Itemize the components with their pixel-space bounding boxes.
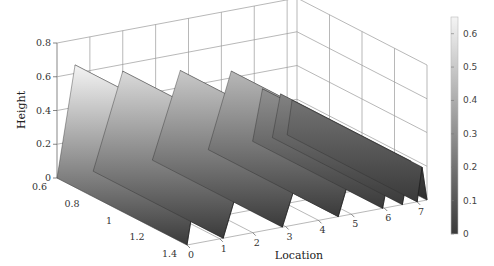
svg-text:0.4: 0.4 <box>463 95 478 105</box>
svg-text:1.2: 1.2 <box>129 231 144 242</box>
colorbar: 00.10.20.30.40.50.6 <box>451 17 478 239</box>
svg-text:3: 3 <box>287 231 293 242</box>
x-axis-label: Location <box>275 249 323 262</box>
svg-text:4: 4 <box>319 224 325 235</box>
surface <box>57 65 427 245</box>
svg-text:7: 7 <box>418 206 424 217</box>
svg-text:0.1: 0.1 <box>463 196 477 206</box>
svg-text:0.3: 0.3 <box>463 129 477 139</box>
svg-text:0.2: 0.2 <box>463 162 477 172</box>
svg-text:2: 2 <box>254 237 260 248</box>
svg-text:0.2: 0.2 <box>36 138 51 149</box>
svg-text:0.8: 0.8 <box>36 37 51 48</box>
svg-text:1: 1 <box>221 243 227 254</box>
svg-text:0.8: 0.8 <box>64 198 79 209</box>
z-axis-label: Height <box>15 90 28 129</box>
svg-text:0.4: 0.4 <box>36 105 51 116</box>
surface-chart: 00.20.40.60.80.60.811.21.401234567 Heigh… <box>0 0 494 266</box>
svg-text:5: 5 <box>352 218 358 229</box>
svg-text:0: 0 <box>463 229 469 239</box>
svg-text:0.6: 0.6 <box>32 181 47 192</box>
svg-text:0.6: 0.6 <box>36 71 51 82</box>
svg-text:0: 0 <box>188 249 194 260</box>
svg-text:1: 1 <box>106 215 112 226</box>
svg-text:0.6: 0.6 <box>463 29 478 39</box>
svg-text:6: 6 <box>385 212 391 223</box>
svg-text:0.5: 0.5 <box>463 62 477 72</box>
svg-text:1.4: 1.4 <box>162 248 177 259</box>
